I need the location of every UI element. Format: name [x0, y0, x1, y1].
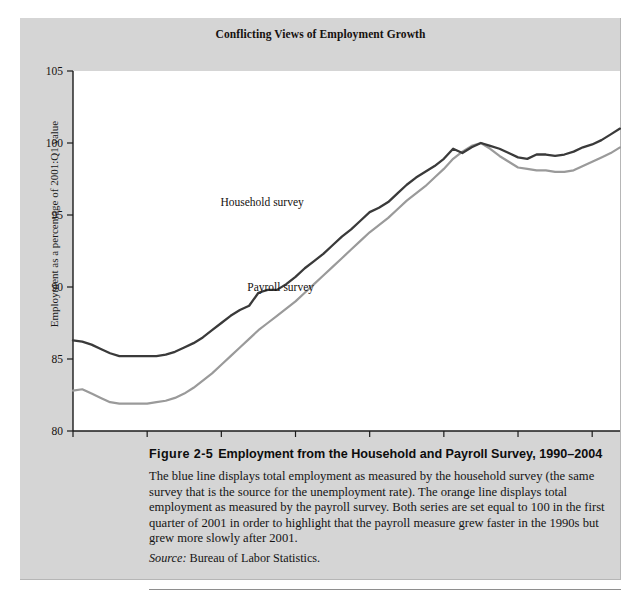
- series-annotation: Payroll survey: [247, 281, 314, 294]
- y-tick-label: 85: [52, 353, 64, 365]
- x-tick-label: 2000: [432, 440, 455, 441]
- figure-title: Employment from the Household and Payrol…: [218, 447, 602, 461]
- caption-body-text: The blue line displays total employment …: [149, 469, 621, 547]
- figure-number: Figure 2-5: [149, 447, 213, 461]
- x-tick-label: 1994: [210, 440, 233, 441]
- source-value: Bureau of Labor Statistics.: [190, 551, 321, 565]
- y-tick-label: 90: [52, 281, 64, 293]
- x-tick-label: 1992: [136, 440, 159, 441]
- x-tick-label: 1998: [358, 440, 381, 441]
- caption-heading: Figure 2-5Employment from the Household …: [149, 446, 621, 463]
- y-tick-label: 80: [52, 425, 64, 437]
- caption-block: Figure 2-5Employment from the Household …: [149, 446, 621, 580]
- source-label: Source:: [149, 551, 186, 565]
- y-tick-label: 105: [46, 65, 64, 77]
- plot-area: Employment as a percentage of 2001:Q1 va…: [20, 35, 621, 441]
- x-tick-label: 1990: [62, 440, 85, 441]
- figure-panel: Conflicting Views of Employment Growth E…: [20, 18, 621, 580]
- x-tick-label: 2004: [581, 440, 604, 441]
- x-tick-label: 1996: [284, 440, 307, 441]
- x-tick-label: 2002: [507, 440, 530, 441]
- series-annotation: Household survey: [220, 196, 304, 209]
- line-chart: 8085909510010519901992199419961998200020…: [20, 35, 621, 441]
- y-tick-label: 95: [52, 209, 64, 221]
- caption-source: Source: Bureau of Labor Statistics.: [149, 551, 621, 566]
- y-tick-label: 100: [46, 137, 64, 149]
- bottom-divider: [149, 589, 621, 590]
